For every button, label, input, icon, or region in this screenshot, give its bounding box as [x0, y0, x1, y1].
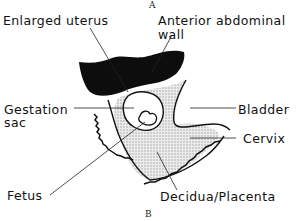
label-anterior-abdominal-wall-line2: wall — [158, 28, 184, 41]
fetus-shape — [139, 111, 157, 125]
marker-b: B — [145, 209, 152, 219]
marker-a: A — [149, 0, 156, 10]
label-fetus: Fetus — [7, 189, 43, 202]
bladder-outline — [174, 80, 230, 130]
label-cervix: Cervix — [243, 132, 285, 145]
label-gestation-sac-line2: sac — [4, 116, 26, 129]
label-decidua-placenta: Decidua/Placenta — [160, 190, 276, 203]
label-enlarged-uterus: Enlarged uterus — [3, 14, 109, 27]
label-bladder: Bladder — [238, 103, 289, 116]
label-anterior-abdominal-wall-line1: Anterior abdominal — [158, 14, 286, 27]
